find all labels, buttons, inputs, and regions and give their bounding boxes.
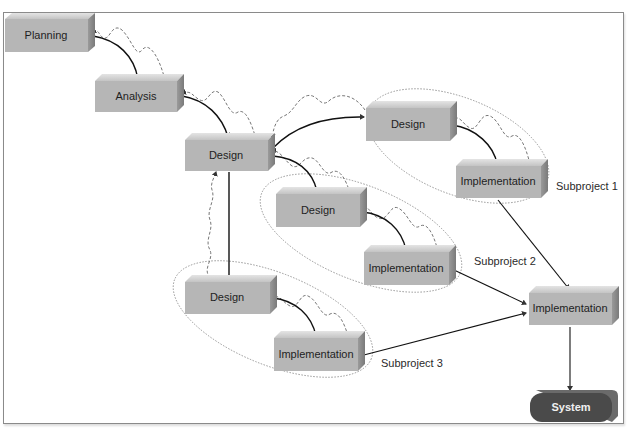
node-impl-sub1-label: Implementation — [460, 175, 535, 187]
subproject-3-ellipse — [157, 237, 388, 402]
subproject-1-ellipse — [351, 66, 565, 227]
subproject-1-label: Subproject 1 — [556, 180, 618, 192]
node-design-sub2[interactable]: Design — [276, 187, 367, 227]
node-impl-sub1[interactable]: Implementation — [456, 159, 548, 198]
arrow-design-to-design1 — [273, 117, 364, 148]
subproject-3-label: Subproject 3 — [381, 357, 443, 369]
arrow-design3-to-impl3 — [272, 298, 316, 336]
arrow-impl1-to-final — [498, 200, 569, 289]
arrow-design1-to-impl1 — [452, 125, 497, 164]
node-design-main-label: Design — [209, 149, 243, 161]
node-design-sub3-label: Design — [210, 291, 244, 303]
node-system-label: System — [551, 401, 590, 413]
node-impl-sub2[interactable]: Implementation — [364, 245, 456, 285]
node-design-sub2-label: Design — [301, 204, 335, 216]
node-design-main[interactable]: Design — [185, 133, 275, 171]
feedback-impl1-to-design1 — [452, 115, 530, 164]
node-system[interactable]: System — [530, 390, 618, 422]
arrow-design2-to-impl2 — [362, 212, 406, 250]
arrow-analysis-to-design — [182, 96, 228, 137]
node-planning-label: Planning — [25, 29, 68, 41]
subproject-2-label: Subproject 2 — [474, 255, 536, 267]
feedback-design2-to-design — [272, 150, 350, 193]
node-design-sub1-label: Design — [391, 118, 425, 130]
node-impl-sub3[interactable]: Implementation — [274, 331, 365, 371]
node-impl-sub3-label: Implementation — [278, 348, 353, 360]
subproject-2-ellipse — [244, 149, 478, 316]
feedback-impl3-to-design3 — [272, 295, 348, 336]
node-impl-final[interactable]: Implementation — [529, 286, 619, 325]
node-analysis[interactable]: Analysis — [95, 74, 184, 112]
node-design-sub3[interactable]: Design — [185, 275, 277, 314]
node-impl-sub2-label: Implementation — [368, 262, 443, 274]
arrow-impl2-to-final — [454, 270, 526, 304]
arrow-impl3-to-final — [360, 313, 526, 356]
feedback-design3-to-design — [207, 172, 216, 278]
feedback-analysis-to-planning — [92, 28, 165, 80]
node-planning[interactable]: Planning — [5, 13, 95, 52]
node-analysis-label: Analysis — [116, 90, 157, 102]
sdlc-subproject-diagram: Planning Analysis Design Design Implemen… — [0, 0, 631, 443]
node-impl-final-label: Implementation — [532, 302, 607, 314]
node-design-sub1[interactable]: Design — [366, 101, 457, 141]
